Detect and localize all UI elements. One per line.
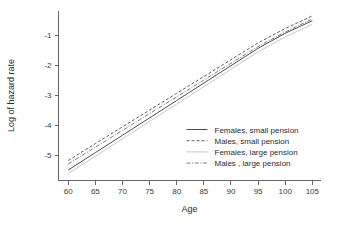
x-tick-label: 85 — [199, 187, 208, 196]
legend-label-2: Females, large pension — [215, 148, 298, 157]
line-chart: 6065707580859095100105-1-2-3-4-5AgeLog o… — [0, 0, 340, 225]
legend-label-0: Females, small pension — [215, 126, 299, 135]
x-tick-label: 75 — [145, 187, 154, 196]
y-tick-label: -3 — [44, 91, 52, 100]
chart-figure: 6065707580859095100105-1-2-3-4-5AgeLog o… — [0, 0, 340, 225]
legend-label-3: Males , large pension — [215, 159, 291, 168]
x-tick-label: 80 — [172, 187, 181, 196]
x-axis-title: Age — [181, 204, 197, 214]
x-tick-label: 100 — [279, 187, 293, 196]
x-tick-label: 70 — [118, 187, 127, 196]
x-tick-label: 60 — [64, 187, 73, 196]
x-tick-label: 95 — [254, 187, 263, 196]
y-tick-label: -1 — [44, 31, 52, 40]
y-axis-title: Log of hazard rate — [6, 59, 16, 132]
legend-label-1: Males, small pension — [215, 137, 290, 146]
x-tick-label: 65 — [91, 187, 100, 196]
x-tick-label: 105 — [306, 187, 320, 196]
y-tick-label: -4 — [44, 121, 52, 130]
x-tick-label: 90 — [227, 187, 236, 196]
y-tick-label: -5 — [44, 151, 52, 160]
y-tick-label: -2 — [44, 61, 52, 70]
